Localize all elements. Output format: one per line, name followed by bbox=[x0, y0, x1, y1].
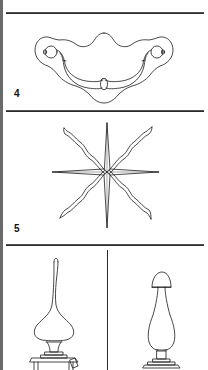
finial-acorn-illustration bbox=[0, 0, 208, 370]
